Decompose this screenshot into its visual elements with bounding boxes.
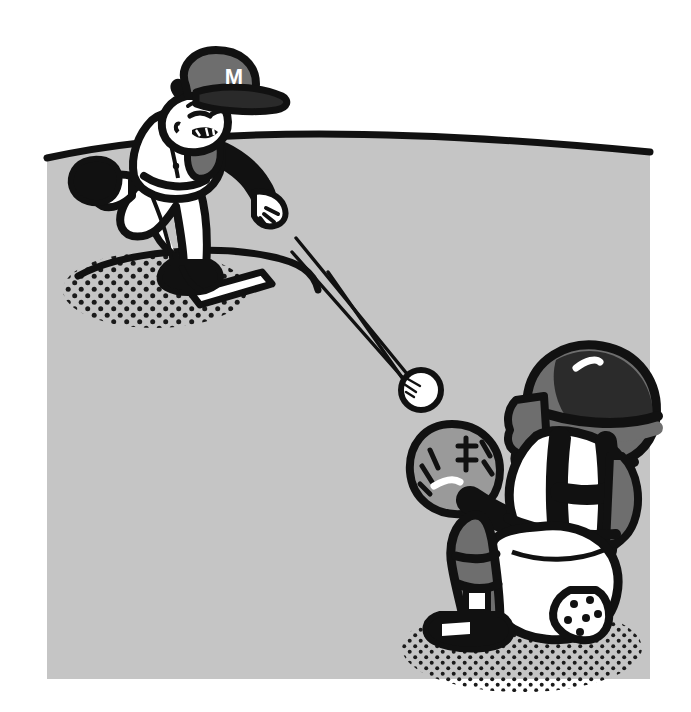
baseball (401, 370, 441, 410)
catcher-shin-guard (451, 515, 500, 622)
pitcher-throwing-hand (254, 192, 286, 227)
baseball-scene-illustration: M (0, 0, 691, 712)
catcher-back-shoe (553, 590, 609, 640)
illustration-canvas: M (0, 0, 691, 712)
cap-logo-text: M (225, 64, 243, 89)
cap-brim (196, 87, 287, 112)
pitcher-glove (71, 159, 120, 203)
catcher-front-shoe (425, 614, 511, 650)
pitcher-cap: M (184, 50, 287, 112)
